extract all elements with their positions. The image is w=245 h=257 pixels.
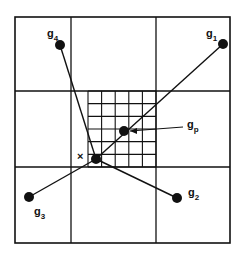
node-g3: [24, 192, 34, 202]
label-g4: g4: [47, 27, 59, 43]
x-marker: ×: [77, 150, 83, 162]
labels: g1g2g3g4gp×: [34, 27, 218, 221]
label-g3: g3: [34, 205, 46, 221]
edge-g4: [60, 45, 96, 159]
edge-g2: [96, 159, 177, 198]
node-x: [91, 154, 101, 164]
nodes: [24, 39, 228, 203]
node-g2: [172, 193, 182, 203]
label-g1: g1: [206, 27, 218, 43]
label-gp: gp: [187, 118, 199, 134]
edges: [29, 44, 223, 198]
edge-g3: [29, 159, 96, 197]
node-g1: [218, 39, 228, 49]
node-gp: [119, 126, 129, 136]
diagram-canvas: g1g2g3g4gp×: [0, 0, 245, 257]
label-g2: g2: [188, 186, 200, 202]
